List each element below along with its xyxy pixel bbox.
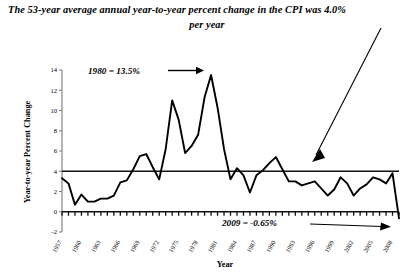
x-tick-label: 1966 [109, 239, 121, 253]
annotation-last-2009-arrow-shaft [310, 224, 382, 227]
x-axis-tick-labels: 1957196019631966196919721975197819811984… [51, 238, 394, 253]
x-tick-label: 1996 [303, 239, 315, 253]
y-tick-label: 6 [54, 147, 58, 154]
annotation-last-2009: 2009 = -0.65% [221, 218, 277, 228]
y-tick-label: 0 [54, 208, 58, 215]
x-tick-label: 2005 [362, 239, 374, 253]
x-tick-label: 1972 [148, 239, 160, 253]
plot-area: -202468101214 19571960196319661969197219… [0, 0, 414, 275]
x-tick-label: 1957 [51, 239, 63, 253]
y-tick-label: 10 [50, 107, 57, 114]
x-tick-label: 1969 [128, 239, 140, 253]
x-tick-label: 1993 [284, 239, 296, 253]
average-callout-arrow-shaft [316, 28, 381, 155]
y-tick-label: -2 [52, 228, 58, 235]
x-tick-label: 1987 [245, 239, 257, 253]
x-tick-label: 1975 [167, 239, 179, 253]
cpi-data-line [62, 75, 399, 218]
annotation-last-2009-arrow-head [380, 223, 391, 231]
x-tick-label: 2002 [342, 239, 354, 253]
y-tick-label: 8 [54, 127, 58, 134]
x-axis-title: Year [217, 260, 234, 269]
y-tick-label: 14 [50, 66, 57, 73]
x-tick-label: 1999 [323, 239, 335, 253]
y-tick-label: 4 [54, 168, 58, 175]
x-tick-label: 1984 [225, 238, 238, 253]
y-axis-title: Year-to-year Percent Change [23, 100, 32, 203]
y-tick-label: 12 [50, 87, 57, 94]
y-axis-ticks: -202468101214 [50, 66, 62, 235]
x-tick-label: 1978 [187, 239, 199, 253]
x-tick-label: 1960 [70, 239, 82, 253]
x-tick-label: 1963 [89, 239, 101, 253]
x-tick-label: 1981 [206, 239, 218, 253]
y-tick-label: 2 [54, 188, 57, 195]
x-tick-label: 2008 [381, 239, 393, 253]
annotation-peak-1980-arrow-head [196, 67, 204, 74]
x-tick-label: 1990 [264, 239, 276, 253]
annotation-peak-1980: 1980 = 13.5% [88, 66, 140, 76]
cpi-chart-figure: The 53-year average annual year-to-year … [0, 0, 414, 275]
